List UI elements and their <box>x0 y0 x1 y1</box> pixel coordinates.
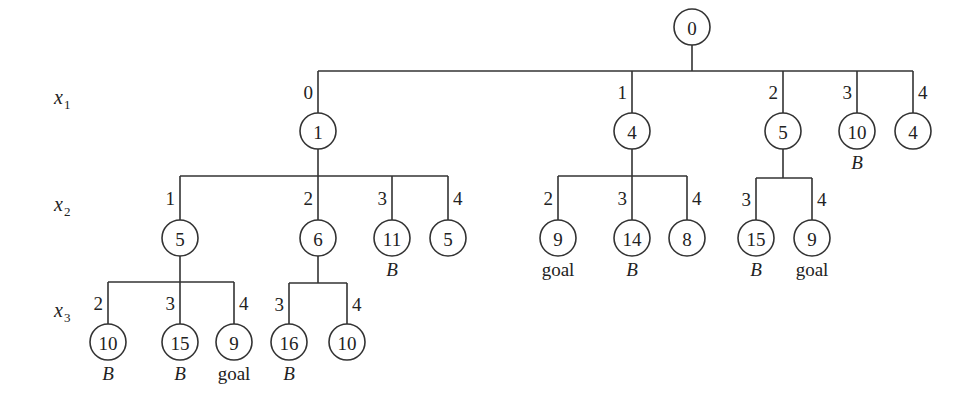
node-value: 5 <box>175 229 185 250</box>
bound-marker: B <box>283 363 295 384</box>
node-value: 6 <box>313 229 323 250</box>
branch-label: 4 <box>352 294 362 315</box>
branch-label: 4 <box>817 189 827 210</box>
bound-marker: B <box>102 363 114 384</box>
node-value: 10 <box>99 333 118 354</box>
tree-nodes: 0104152103B445162113B5492goal143B84153B9… <box>90 9 931 384</box>
bound-marker: B <box>626 259 638 280</box>
goal-marker: goal <box>796 259 829 280</box>
node-value: 15 <box>171 333 190 354</box>
node-value: 1 <box>313 122 323 143</box>
node-value: 0 <box>687 18 697 39</box>
branch-label: 2 <box>94 293 104 314</box>
branch-label: 3 <box>843 82 853 103</box>
branch-label: 3 <box>166 293 176 314</box>
branch-label: 3 <box>378 188 388 209</box>
branch-label: 3 <box>742 189 752 210</box>
goal-marker: goal <box>542 259 575 280</box>
bound-marker: B <box>851 152 863 173</box>
node-value: 11 <box>383 229 401 250</box>
branch-label: 2 <box>769 82 779 103</box>
branch-label: 4 <box>453 188 463 209</box>
node-value: 4 <box>627 122 637 143</box>
level-label-x3: x3 <box>53 299 70 325</box>
branch-label: 4 <box>692 188 702 209</box>
node-value: 9 <box>553 229 563 250</box>
node-value: 10 <box>848 122 867 143</box>
node-value: 10 <box>338 333 357 354</box>
node-value: 4 <box>908 122 918 143</box>
node-value: 15 <box>747 229 766 250</box>
goal-marker: goal <box>218 363 251 384</box>
branch-label: 1 <box>166 188 176 209</box>
level-labels: x1x2x3 <box>53 86 70 325</box>
node-value: 16 <box>280 333 299 354</box>
branch-label: 2 <box>544 188 554 209</box>
node-value: 9 <box>229 333 239 354</box>
branch-label: 1 <box>618 82 628 103</box>
node-value: 14 <box>623 229 643 250</box>
branch-label: 4 <box>918 82 928 103</box>
branch-label: 0 <box>304 82 314 103</box>
tree-edges <box>108 45 913 324</box>
branch-label: 2 <box>304 188 314 209</box>
node-value: 5 <box>443 229 453 250</box>
branch-label: 3 <box>275 294 285 315</box>
level-label-x2: x2 <box>53 193 70 219</box>
bound-marker: B <box>174 363 186 384</box>
level-label-x1: x1 <box>53 86 70 112</box>
bound-marker: B <box>386 259 398 280</box>
bound-marker: B <box>750 259 762 280</box>
tree-node: 0 <box>674 9 710 45</box>
node-value: 8 <box>682 229 692 250</box>
node-value: 9 <box>807 229 817 250</box>
search-tree-diagram: x1x2x3 0104152103B445162113B5492goal143B… <box>0 0 972 403</box>
node-value: 5 <box>778 122 788 143</box>
branch-label: 3 <box>618 188 628 209</box>
branch-label: 4 <box>239 293 249 314</box>
